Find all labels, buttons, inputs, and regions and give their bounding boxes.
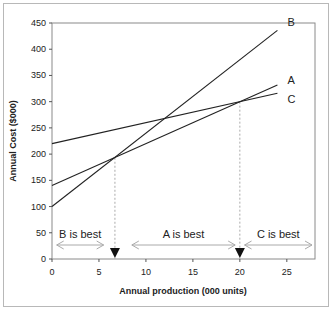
y-tick-label: 350: [31, 70, 46, 80]
x-tick-label: 20: [235, 267, 245, 277]
series-label-c: C: [287, 93, 295, 105]
x-tick-label: 10: [141, 267, 151, 277]
region-label: A is best: [163, 228, 205, 240]
plot-area: [52, 23, 315, 259]
y-axis-title: Annual Cost ($000): [8, 100, 18, 182]
y-tick-label: 100: [31, 202, 46, 212]
x-tick-label: 5: [96, 267, 101, 277]
x-tick-label: 25: [282, 267, 292, 277]
chart: 050100150200250300350400450 0510152025 A…: [0, 0, 334, 314]
series-line-c: [52, 93, 277, 143]
y-tick-label: 400: [31, 44, 46, 54]
y-tick-label: 450: [31, 18, 46, 28]
y-tick-label: 300: [31, 97, 46, 107]
series-lines: ABC: [52, 16, 295, 206]
region-annotations: B is bestA is bestC is best: [57, 228, 312, 249]
region-label: C is best: [257, 228, 300, 240]
y-tick-label: 200: [31, 149, 46, 159]
series-label-b: B: [287, 16, 294, 28]
x-tick-label: 15: [188, 267, 198, 277]
breakeven-marker-icon: [110, 248, 120, 258]
x-axis: 0510152025: [49, 259, 291, 277]
x-tick-label: 0: [49, 267, 54, 277]
series-label-a: A: [287, 74, 295, 86]
y-tick-label: 150: [31, 175, 46, 185]
y-tick-label: 0: [41, 254, 46, 264]
y-tick-label: 250: [31, 123, 46, 133]
y-axis: 050100150200250300350400450: [31, 18, 52, 264]
region-label: B is best: [59, 228, 101, 240]
y-tick-label: 50: [36, 228, 46, 238]
breakeven-marker-icon: [235, 248, 245, 258]
plot-border: [52, 23, 315, 259]
series-line-a: [52, 85, 277, 186]
x-axis-title: Annual production (000 units): [119, 286, 247, 296]
